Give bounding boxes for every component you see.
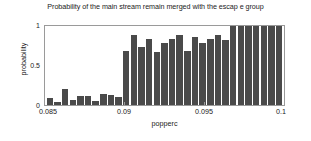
bar-series: [45, 26, 284, 105]
bar: [161, 43, 167, 105]
y-tick-label-0: 0: [0, 102, 40, 109]
bar: [154, 52, 160, 105]
chart-title: Probability of the main stream remain me…: [0, 2, 311, 11]
bar: [100, 94, 106, 105]
bar: [222, 40, 228, 105]
bar: [215, 35, 221, 105]
x-tick-label-0point09: 0.09: [117, 108, 131, 116]
bar: [131, 35, 137, 105]
bar: [77, 96, 83, 105]
bar: [230, 26, 236, 105]
bar: [245, 26, 251, 105]
bar: [108, 95, 114, 105]
bar: [184, 51, 190, 106]
x-tick-mark-0point095: [204, 102, 205, 106]
bar: [54, 102, 60, 105]
plot-area: [44, 25, 285, 106]
bar: [261, 26, 267, 105]
bar: [268, 26, 274, 105]
x-tick-label-0point095: 0.095: [195, 108, 213, 116]
bar: [123, 51, 129, 105]
x-tick-label-0point085: 0.085: [39, 108, 57, 116]
bar: [276, 26, 282, 105]
bar: [62, 89, 68, 105]
x-axis-label: popperc: [44, 120, 285, 128]
bar: [115, 97, 121, 105]
bar: [176, 35, 182, 105]
bar: [138, 47, 144, 105]
bar: [47, 98, 53, 105]
x-tick-mark-0point09: [124, 102, 125, 106]
y-tick-label-1: 1: [0, 22, 40, 29]
bar: [238, 26, 244, 105]
x-tick-label-0point1: 0.1: [276, 108, 286, 116]
bar: [207, 39, 213, 105]
bar: [192, 37, 198, 105]
bar: [199, 43, 205, 105]
bar: [253, 26, 259, 105]
bar: [85, 96, 91, 105]
bar: [92, 101, 98, 105]
bar: [169, 39, 175, 105]
bar: [70, 100, 76, 105]
y-axis-label: probability: [20, 29, 28, 89]
bar: [146, 39, 152, 105]
figure: Probability of the main stream remain me…: [0, 0, 311, 141]
